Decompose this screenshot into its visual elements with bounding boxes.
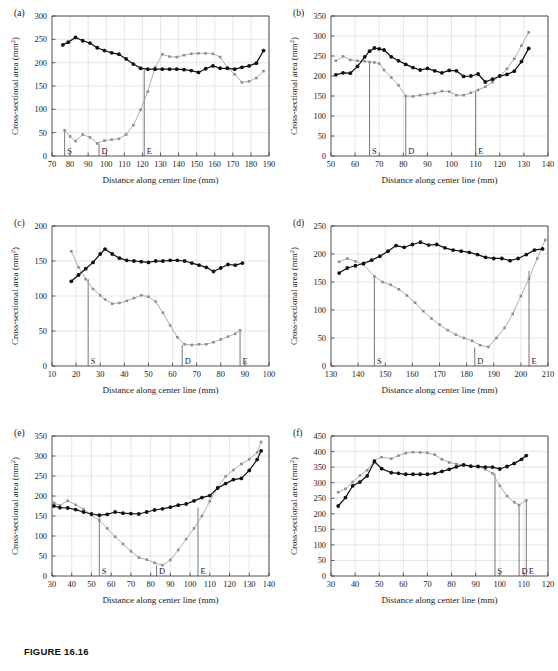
data-point-black [255, 458, 259, 462]
x-tick-label: 80 [66, 160, 74, 169]
data-point-gray [66, 500, 69, 503]
data-point-gray [111, 302, 114, 305]
data-point-gray [426, 452, 429, 455]
data-point-black [197, 71, 201, 75]
data-point-gray [338, 261, 341, 264]
data-point-gray [441, 458, 444, 461]
data-point-black [435, 243, 439, 247]
x-tick-label: 190 [263, 160, 276, 169]
data-point-gray [190, 53, 193, 56]
data-point-gray [185, 538, 188, 541]
data-point-gray [147, 90, 150, 93]
series-line-black [339, 242, 542, 273]
data-point-black [208, 494, 212, 498]
x-tick-label: 50 [327, 160, 335, 169]
data-point-black [373, 46, 377, 50]
x-tick-label: 20 [72, 370, 80, 379]
data-point-gray [380, 456, 383, 459]
data-point-black [168, 505, 172, 509]
data-point-black [91, 261, 95, 265]
x-tick-label: 170 [227, 160, 240, 169]
data-point-gray [373, 275, 376, 278]
data-point-black [373, 460, 377, 464]
data-point-black [433, 471, 437, 475]
data-point-gray [175, 56, 178, 59]
data-point-gray [363, 60, 366, 63]
data-point-black [192, 499, 196, 503]
data-point-gray [212, 341, 215, 344]
data-point-gray [260, 441, 263, 444]
data-point-black [197, 263, 201, 267]
data-point-gray [204, 52, 207, 55]
x-axis-title: Distance along center line (mm) [103, 175, 219, 185]
data-point-gray [161, 564, 164, 567]
data-point-gray [479, 344, 482, 347]
data-point-black [233, 263, 237, 267]
data-point-black [247, 64, 251, 68]
data-point-gray [520, 44, 523, 47]
x-tick-label: 60 [168, 370, 176, 379]
data-point-gray [414, 301, 417, 304]
data-point-black [337, 271, 341, 275]
data-point-black [219, 266, 223, 270]
data-point-black [124, 57, 128, 61]
data-point-gray [433, 92, 436, 95]
data-point-black [81, 39, 85, 43]
data-point-gray [106, 527, 109, 530]
x-tick-label: 40 [120, 370, 128, 379]
data-point-black [454, 465, 458, 469]
x-tick-label: 70 [192, 370, 200, 379]
data-point-gray [366, 469, 369, 472]
data-point-gray [368, 61, 371, 64]
x-tick-label: 210 [542, 370, 555, 379]
svg-text:Cross-sectional area (mm2): Cross-sectional area (mm2) [288, 37, 300, 135]
x-tick-label: 180 [460, 370, 473, 379]
x-tick-label: 160 [406, 370, 419, 379]
x-tick-label: 130 [243, 580, 256, 589]
data-point-black [377, 47, 381, 51]
y-tick-label: 200 [313, 250, 326, 259]
data-point-gray [491, 472, 494, 475]
y-tick-label: 300 [313, 32, 326, 41]
data-point-gray [344, 488, 347, 491]
x-tick-label: 180 [245, 160, 258, 169]
data-point-black [368, 49, 372, 53]
y-tick-label: 250 [34, 472, 47, 481]
data-point-black [336, 504, 340, 508]
data-point-gray [412, 451, 415, 454]
data-point-gray [63, 129, 66, 132]
data-point-black [145, 510, 149, 514]
data-point-gray [477, 89, 480, 92]
data-point-gray [122, 543, 125, 546]
data-point-gray [212, 53, 215, 56]
data-point-black [484, 255, 488, 259]
data-point-gray [433, 453, 436, 456]
data-point-gray [110, 138, 113, 141]
data-point-black [476, 253, 480, 257]
marker-label-e: E [147, 147, 152, 156]
marker-label-e: E [478, 147, 483, 156]
y-tick-label: 350 [34, 432, 47, 441]
data-point-black [492, 257, 496, 261]
y-axis-title: Cross-sectional area (mm2) [9, 457, 21, 555]
marker-label-s: S [102, 567, 107, 576]
data-point-black [394, 244, 398, 248]
data-point-gray [240, 463, 243, 466]
y-tick-label: 250 [313, 52, 326, 61]
marker-label-d: D [477, 357, 483, 366]
data-point-black [498, 74, 502, 78]
data-point-gray [234, 333, 237, 336]
data-point-gray [241, 81, 244, 84]
data-point-black [204, 265, 208, 269]
data-point-gray [262, 70, 265, 73]
data-point-black [216, 486, 220, 490]
data-point-gray [511, 313, 514, 316]
data-point-black [433, 69, 437, 73]
marker-label-d: D [522, 567, 528, 576]
data-point-black [404, 63, 408, 67]
y-tick-label: 0 [43, 572, 47, 581]
x-tick-label: 10 [48, 370, 56, 379]
x-tick-label: 130 [518, 160, 531, 169]
data-point-black [113, 510, 117, 514]
data-point-gray [219, 338, 222, 341]
